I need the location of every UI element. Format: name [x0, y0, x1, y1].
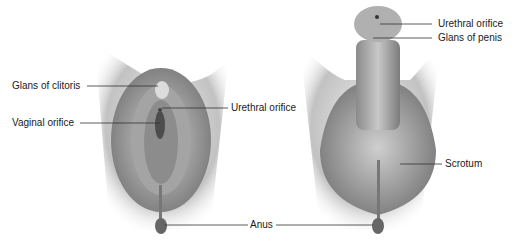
label-glans-of-penis: Glans of penis [438, 32, 502, 44]
right-figure [300, 6, 440, 234]
label-glans-of-clitoris: Glans of clitoris [12, 80, 80, 92]
label-urethral-orifice-female: Urethral orifice [231, 102, 296, 114]
label-anus: Anus [250, 219, 273, 231]
label-scrotum: Scrotum [445, 158, 482, 170]
left-figure [95, 45, 230, 234]
label-urethral-orifice-male: Urethral orifice [438, 18, 503, 30]
label-vaginal-orifice: Vaginal orifice [12, 117, 74, 129]
